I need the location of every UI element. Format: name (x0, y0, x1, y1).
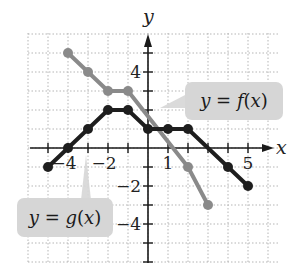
data-point (103, 86, 113, 96)
data-point (223, 162, 233, 172)
y-tick-label: 4 (130, 62, 141, 82)
data-point (43, 162, 53, 172)
data-point (243, 181, 253, 191)
data-point (183, 162, 193, 172)
y-tick-label: −2 (116, 176, 141, 196)
data-point (123, 105, 133, 115)
data-point (63, 143, 73, 153)
x-tick-label: −4 (51, 153, 76, 173)
data-point (203, 200, 213, 210)
x-tick-label: −2 (91, 153, 116, 173)
y-axis-arrow-icon (144, 34, 152, 47)
data-point (63, 48, 73, 58)
data-point (183, 124, 193, 134)
y-tick-label: −4 (116, 214, 141, 234)
x-axis-label: x (276, 136, 287, 158)
data-point (143, 124, 153, 134)
f-callout: y = f(x) (160, 82, 283, 120)
data-point (103, 105, 113, 115)
g-label: y = g(x) (28, 207, 101, 228)
function-graph: −4−2154−2−4 y = f(x)y = g(x) x y (0, 0, 296, 263)
x-tick-label: 5 (243, 153, 254, 173)
data-point (163, 124, 173, 134)
data-point (83, 67, 93, 77)
data-point (83, 124, 93, 134)
y-axis-label: y (142, 5, 154, 27)
data-point (123, 86, 133, 96)
f-label: y = f(x) (199, 90, 268, 111)
x-tick-label: 1 (163, 153, 174, 173)
